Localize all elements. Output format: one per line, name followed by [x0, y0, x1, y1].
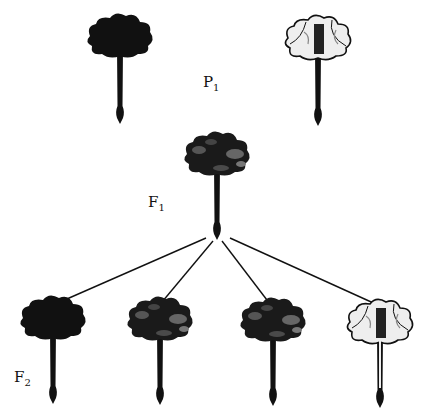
f2-mottled-flower-2	[240, 297, 305, 406]
f2-white-flower	[347, 299, 412, 408]
f1-mottled-flower	[184, 131, 249, 240]
f2-mottled-flower-1	[127, 296, 192, 405]
p1-dark-flower	[87, 13, 152, 124]
label-f1: F1	[148, 193, 165, 213]
genetics-cross-diagram: P1 F1 F2	[0, 0, 434, 419]
label-p1: P1	[203, 73, 219, 93]
branch-lines	[60, 238, 380, 306]
diagram-canvas	[0, 0, 434, 419]
label-f2: F2	[14, 368, 31, 388]
p1-white-flower	[285, 15, 350, 126]
